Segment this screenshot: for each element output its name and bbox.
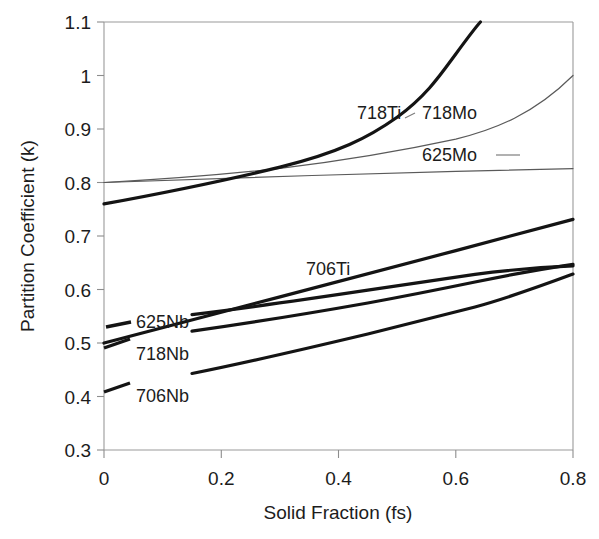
series-label-718Nb: 718Nb (136, 344, 189, 364)
x-axis-title: Solid Fraction (fs) (264, 502, 413, 523)
legend-swatch-706Nb (104, 383, 130, 392)
y-tick-label: 0.9 (65, 119, 91, 140)
legend-swatch-625Nb (106, 322, 131, 327)
y-tick-label: 0.5 (65, 333, 91, 354)
x-tick-label: 0 (99, 468, 110, 489)
y-axis-title: Partition Coefficient (k) (17, 140, 38, 332)
x-tick-labels: 0 0.2 0.4 0.6 0.8 (99, 468, 587, 489)
y-tick-label: 0.6 (65, 280, 91, 301)
series-label-706Nb: 706Nb (136, 386, 189, 406)
series-label-706Ti: 706Ti (306, 259, 350, 279)
y-tick-label: 1 (80, 66, 91, 87)
y-tick-label: 0.4 (65, 387, 92, 408)
series-line-625Mo (104, 169, 573, 183)
y-tick-label: 1.1 (65, 12, 91, 33)
x-tick-label: 0.6 (443, 468, 469, 489)
y-tick-label: 0.8 (65, 173, 91, 194)
x-axis-ticks (104, 450, 573, 458)
series-line-718Mo (104, 76, 573, 183)
series-labels: 718Ti 718Mo 625Mo 706Ti 625Nb 718Nb 706N… (104, 103, 520, 406)
partition-coefficient-chart: 0.3 0.4 0.5 0.6 0.7 0.8 0.9 1 1.1 0 0.2 … (0, 0, 599, 539)
series-line-718Nb (192, 264, 573, 331)
series-label-718Ti: 718Ti (357, 103, 401, 123)
y-tick-labels: 0.3 0.4 0.5 0.6 0.7 0.8 0.9 1 1.1 (65, 12, 92, 461)
y-tick-label: 0.3 (65, 440, 91, 461)
series-label-625Mo: 625Mo (422, 145, 477, 165)
y-axis-ticks (97, 22, 104, 450)
x-tick-label: 0.4 (325, 468, 352, 489)
series-label-625Nb: 625Nb (136, 312, 189, 332)
chart-figure: 0.3 0.4 0.5 0.6 0.7 0.8 0.9 1 1.1 0 0.2 … (0, 0, 599, 539)
x-tick-label: 0.2 (208, 468, 234, 489)
series-label-718Mo: 718Mo (422, 103, 477, 123)
y-tick-label: 0.7 (65, 226, 91, 247)
x-tick-label: 0.8 (560, 468, 586, 489)
